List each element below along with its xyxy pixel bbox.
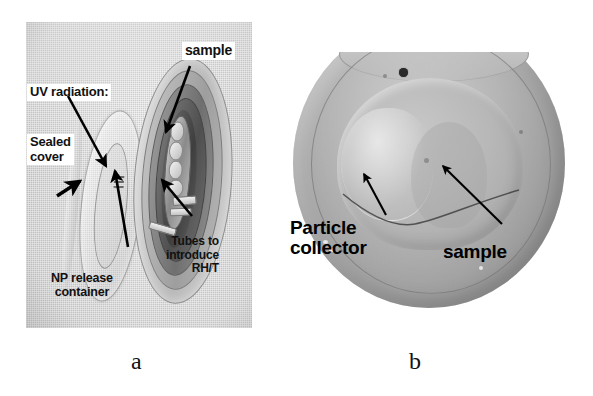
surface-speck-6 (479, 266, 483, 270)
label-sample-panel-b: sample (443, 242, 507, 262)
cavity-seam (341, 188, 521, 236)
label-particle-collector-line1: Particle (290, 218, 367, 238)
label-tubes-line1: Tubes to (166, 235, 219, 249)
label-sealed-cover-line2: cover (30, 150, 71, 165)
np-release-container-object (114, 174, 125, 189)
label-uv-radiation: UV radiation: (27, 84, 111, 101)
tube-inlet-1 (172, 195, 197, 206)
surface-speck-1 (383, 74, 387, 78)
chamber-port-hole (399, 68, 408, 77)
sealed-cover-inner-ring (89, 142, 134, 271)
caption-panel-b: b (409, 348, 421, 375)
label-sample-panel-a: sample (182, 42, 235, 60)
label-np-release-line1: NP release (51, 271, 113, 285)
caption-panel-a: a (131, 348, 142, 375)
label-sealed-cover: Sealed cover (27, 134, 74, 165)
label-np-release-container: NP release container (48, 270, 116, 300)
label-sealed-cover-line1: Sealed (30, 135, 71, 150)
label-tubes-line2: introduce (166, 249, 219, 263)
label-tubes-line3: RH/T (166, 262, 219, 276)
panel-a-image: sample UV radiation: Sealed cover NP rel… (26, 22, 252, 328)
surface-speck-2 (519, 130, 523, 134)
panel-b-image: Particle collector sample (283, 12, 575, 312)
tube-inlet-2 (170, 208, 192, 217)
panel-b-top-crop (293, 12, 565, 52)
label-particle-collector-line2: collector (290, 238, 367, 258)
label-particle-collector: Particle collector (290, 218, 367, 258)
label-np-release-line2: container (51, 285, 113, 299)
surface-speck-3 (424, 158, 429, 163)
label-tubes-to-introduce: Tubes to introduce RH/T (163, 234, 222, 277)
figure-container: sample UV radiation: Sealed cover NP rel… (0, 0, 593, 396)
